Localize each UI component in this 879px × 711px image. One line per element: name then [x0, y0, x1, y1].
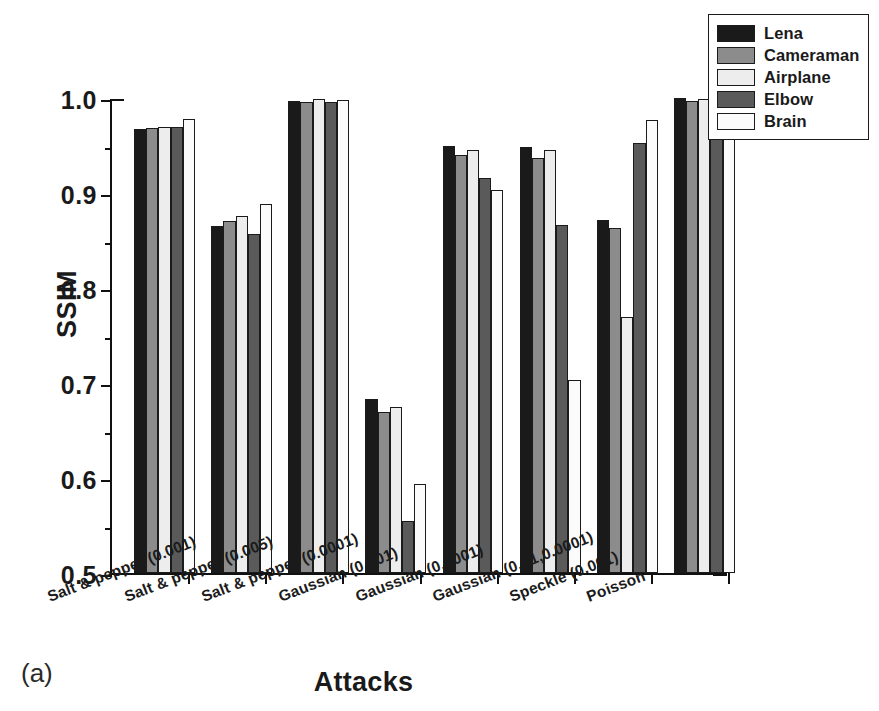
y-axis-tick-mark	[101, 575, 112, 577]
legend-swatch-icon	[717, 69, 755, 86]
y-axis-minor-tick	[105, 243, 112, 245]
bar	[443, 146, 455, 574]
bar	[365, 399, 377, 573]
bar	[248, 234, 260, 573]
legend-swatch-icon	[717, 91, 755, 108]
x-axis-tick-mark	[651, 573, 653, 584]
bar	[455, 155, 467, 573]
legend-item-label: Airplane	[764, 68, 831, 87]
y-axis-tick-label: 0.9	[61, 181, 97, 210]
bar	[390, 407, 402, 573]
y-axis-top-cap	[110, 99, 124, 101]
panel-label: (a)	[21, 658, 53, 689]
bar	[260, 204, 272, 573]
x-axis-tick-mark	[497, 573, 499, 584]
legend-item-label: Lena	[764, 24, 803, 43]
bar	[556, 225, 568, 573]
legend-item-label: Elbow	[764, 90, 813, 109]
bar	[378, 412, 390, 574]
bar	[414, 484, 426, 573]
y-axis-tick-mark	[101, 480, 112, 482]
y-axis-minor-tick	[105, 148, 112, 150]
bar	[674, 98, 686, 573]
x-axis-tick-mark	[574, 573, 576, 584]
legend: LenaCameramanAirplaneElbowBrain	[708, 14, 869, 140]
bar	[597, 220, 609, 573]
bar	[337, 100, 349, 573]
bar	[621, 317, 633, 574]
bar	[158, 127, 170, 573]
y-axis-title: SSIM	[52, 270, 82, 338]
bar	[723, 98, 735, 573]
legend-item-label: Cameraman	[764, 46, 859, 65]
bar	[710, 98, 722, 573]
bar	[633, 143, 645, 573]
bar	[686, 101, 698, 573]
x-axis-tick-mark	[188, 573, 190, 584]
x-axis-right-cap	[713, 574, 727, 576]
bar	[211, 226, 223, 573]
bar	[698, 99, 710, 573]
bar	[236, 216, 248, 573]
legend-swatch-icon	[717, 47, 755, 64]
y-axis-tick-mark	[101, 290, 112, 292]
y-axis-minor-tick	[105, 433, 112, 435]
legend-item[interactable]: Cameraman	[717, 44, 859, 66]
bar	[134, 129, 146, 573]
bar	[325, 102, 337, 573]
y-axis-tick-mark	[101, 385, 112, 387]
bar	[183, 119, 195, 573]
bar	[146, 128, 158, 573]
y-axis-minor-tick	[105, 338, 112, 340]
y-axis-minor-tick	[105, 528, 112, 530]
bar	[313, 99, 325, 573]
y-axis-tick-label: 0.7	[61, 371, 97, 400]
legend-swatch-icon	[717, 113, 755, 130]
bar	[568, 380, 580, 573]
bar	[646, 120, 658, 573]
bar	[300, 102, 312, 573]
y-axis-tick-mark	[101, 195, 112, 197]
bar	[491, 190, 503, 573]
legend-swatch-icon	[717, 25, 755, 42]
legend-item[interactable]: Brain	[717, 110, 859, 132]
bar	[171, 127, 183, 573]
legend-item[interactable]: Lena	[717, 22, 859, 44]
x-axis-tick-mark	[342, 573, 344, 584]
bar	[544, 150, 556, 573]
x-axis-tick-mark	[420, 573, 422, 584]
bar	[520, 147, 532, 573]
y-axis-tick-label: 0.6	[61, 466, 97, 495]
bar	[467, 150, 479, 573]
bar	[609, 228, 621, 573]
bar	[532, 158, 544, 573]
legend-item-label: Brain	[764, 112, 807, 131]
bar	[479, 178, 491, 573]
bar	[402, 521, 414, 573]
legend-item[interactable]: Airplane	[717, 66, 859, 88]
x-axis-tick-mark	[728, 573, 730, 584]
plot-area: 0.50.60.70.80.91.0	[110, 100, 727, 575]
figure-panel-a: 0.50.60.70.80.91.0 SSIM Salt & pepper (0…	[0, 0, 879, 711]
x-axis-title: Attacks	[0, 667, 727, 698]
legend-item[interactable]: Elbow	[717, 88, 859, 110]
x-axis-tick-mark	[265, 573, 267, 584]
bar	[223, 221, 235, 573]
bar	[288, 101, 300, 573]
y-axis-tick-label: 1.0	[61, 86, 97, 115]
y-axis-tick-label: 0.5	[61, 561, 97, 590]
